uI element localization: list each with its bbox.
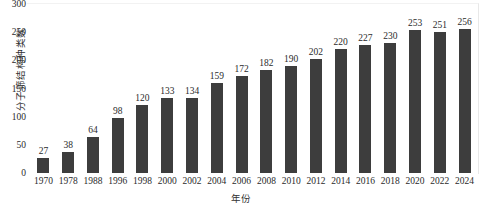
bar[interactable]	[136, 105, 148, 173]
bar-value-label: 253	[408, 18, 422, 28]
bar-slot: 172	[229, 4, 254, 173]
bar[interactable]	[112, 118, 124, 173]
x-axis-tick-label: 1996	[105, 176, 130, 187]
x-axis-tick-label: 2000	[155, 176, 180, 187]
bar[interactable]	[161, 98, 173, 173]
bar-slot: 38	[56, 4, 81, 173]
bar-value-label: 220	[334, 37, 348, 47]
x-axis-tick-label: 2022	[427, 176, 452, 187]
x-axis-tick-label: 2018	[378, 176, 403, 187]
bar-value-label: 98	[113, 106, 123, 116]
bar-value-label: 159	[210, 71, 224, 81]
x-axis-tick-label: 1970	[31, 176, 56, 187]
bar-slot: 120	[130, 4, 155, 173]
bar-slot: 202	[304, 4, 329, 173]
bar-value-label: 190	[284, 54, 298, 64]
bar-slot: 182	[254, 4, 279, 173]
x-axis-tick-label: 1998	[130, 176, 155, 187]
y-axis-tick-label: 150	[0, 84, 26, 94]
bar-slot: 230	[378, 4, 403, 173]
x-axis-tick-label: 1978	[56, 176, 81, 187]
bar-value-label: 38	[63, 140, 73, 150]
bar-slot: 98	[105, 4, 130, 173]
bar-slot: 190	[279, 4, 304, 173]
bar-value-label: 227	[358, 33, 372, 43]
x-axis-tick-label: 1988	[81, 176, 106, 187]
bar-slot: 159	[204, 4, 229, 173]
bar-slot: 227	[353, 4, 378, 173]
bar-slot: 27	[31, 4, 56, 173]
x-axis-tick-label: 2008	[254, 176, 279, 187]
x-axis-tick-label: 2020	[403, 176, 428, 187]
y-axis-tick-label: 250	[0, 27, 26, 37]
bar[interactable]	[37, 158, 49, 173]
bar[interactable]	[434, 32, 446, 173]
bar[interactable]	[260, 70, 272, 173]
x-axis-tick-label: 2016	[353, 176, 378, 187]
plot-area: 2738649812013313415917218219020222022723…	[31, 4, 477, 173]
x-axis-tick-label: 2006	[229, 176, 254, 187]
bar[interactable]	[335, 49, 347, 173]
bar-value-label: 27	[39, 146, 49, 156]
bar[interactable]	[384, 43, 396, 173]
bar[interactable]	[459, 29, 471, 173]
y-axis-tick-label: 0	[0, 168, 26, 178]
bar[interactable]	[62, 152, 74, 173]
bar-slot: 253	[403, 4, 428, 173]
bar[interactable]	[186, 98, 198, 173]
bar-value-label: 202	[309, 47, 323, 57]
bar[interactable]	[310, 59, 322, 173]
bar-slot: 134	[180, 4, 205, 173]
x-axis-tick-label: 2002	[180, 176, 205, 187]
bar-value-label: 230	[383, 31, 397, 41]
bar[interactable]	[211, 83, 223, 173]
y-axis-tick-label: 50	[0, 140, 26, 150]
bar[interactable]	[87, 137, 99, 173]
y-axis-tick-labels: 050100150200250300	[0, 0, 26, 209]
bar[interactable]	[236, 76, 248, 173]
bar-value-label: 120	[135, 93, 149, 103]
x-axis-tick-label: 2012	[304, 176, 329, 187]
y-axis-tick-label: 200	[0, 55, 26, 65]
bar-value-label: 64	[88, 125, 98, 135]
y-axis-tick-label: 300	[0, 0, 26, 9]
bar[interactable]	[285, 66, 297, 173]
y-axis-tick-label: 100	[0, 112, 26, 122]
x-axis-tick-label: 2004	[204, 176, 229, 187]
bar-chart: 分子筛结构种类数 050100150200250300 273864981201…	[0, 0, 482, 209]
bar[interactable]	[359, 45, 371, 173]
bar-value-label: 172	[234, 64, 248, 74]
bar-value-label: 256	[457, 17, 471, 27]
x-axis-tick-label: 2010	[279, 176, 304, 187]
x-axis-title: 年份	[0, 191, 482, 205]
bar-slot: 256	[452, 4, 477, 173]
bar-value-label: 182	[259, 58, 273, 68]
bar-slot: 251	[427, 4, 452, 173]
x-axis-tick-labels: 1970197819881996199820002002200420062008…	[31, 176, 477, 190]
x-axis-tick-label: 2024	[452, 176, 477, 187]
bar-value-label: 251	[433, 20, 447, 30]
bar-value-label: 134	[185, 86, 199, 96]
bar-slot: 220	[328, 4, 353, 173]
bar-value-label: 133	[160, 86, 174, 96]
bar-slot: 64	[81, 4, 106, 173]
x-axis-tick-label: 2014	[328, 176, 353, 187]
bar[interactable]	[409, 30, 421, 173]
bar-slot: 133	[155, 4, 180, 173]
